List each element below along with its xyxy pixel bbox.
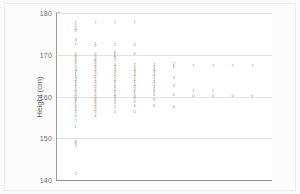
data-point: 5 [70, 29, 82, 33]
data-point: 2 [109, 43, 121, 47]
y-axis-title-container: Height (cm) [8, 13, 28, 180]
data-column: 728657453412461402086420 [109, 13, 121, 180]
chart-figure: Height (cm) 140150160170180 710531089675… [0, 0, 300, 194]
data-point: 1 [70, 125, 82, 129]
y-axis-tick-label: 160 [40, 93, 52, 100]
data-column: 263106 [168, 13, 180, 180]
data-point: 0 [187, 94, 199, 98]
data-point: 7 [227, 64, 239, 68]
data-column: 72075434241402108640 [129, 13, 141, 180]
plot-panel: 7105310896754314264140208654414218672710… [56, 13, 272, 180]
data-point: 7 [89, 21, 101, 25]
data-point: 2 [70, 119, 82, 123]
data-point: 0 [227, 94, 239, 98]
y-axis-tick-label: 170 [40, 51, 52, 58]
data-point: 0 [89, 44, 101, 48]
data-point: 6 [148, 104, 160, 108]
data-point: 0 [168, 93, 180, 97]
data-point: 1 [70, 42, 82, 46]
data-point: 1 [168, 84, 180, 88]
data-point: 4 [129, 104, 141, 108]
data-point: 7 [187, 64, 199, 68]
y-axis-line [56, 13, 57, 180]
data-point: 0 [207, 94, 219, 98]
data-column: 7105310896754314264140208654414218672 [70, 13, 82, 180]
data-column: 70 [227, 13, 239, 180]
data-column: 710 [187, 13, 199, 180]
x-axis-line [56, 180, 272, 181]
data-point: 7 [207, 64, 219, 68]
data-point: 7 [109, 21, 121, 25]
data-point: 7 [246, 64, 258, 68]
data-point: 3 [168, 76, 180, 80]
data-point: 4 [89, 114, 101, 118]
data-point: 2 [129, 43, 141, 47]
data-point: 0 [129, 52, 141, 56]
data-point: 6 [168, 105, 180, 109]
data-column: 710 [207, 13, 219, 180]
data-point: 6 [168, 65, 180, 69]
data-column: 7100986544324142041008654204 [89, 13, 101, 180]
y-axis-tick-label: 140 [40, 177, 52, 184]
y-axis-tick-label: 180 [40, 10, 52, 17]
data-point: 0 [129, 110, 141, 114]
y-axis-tick-label: 150 [40, 135, 52, 142]
data-point: 7 [129, 21, 141, 25]
data-point: 2 [70, 172, 82, 176]
data-column: 70 [246, 13, 258, 180]
data-point: 0 [246, 94, 258, 98]
data-point: 0 [109, 110, 121, 114]
data-column: 754342142100086 [148, 13, 160, 180]
data-point: 7 [70, 145, 82, 149]
data-point: 8 [148, 98, 160, 102]
